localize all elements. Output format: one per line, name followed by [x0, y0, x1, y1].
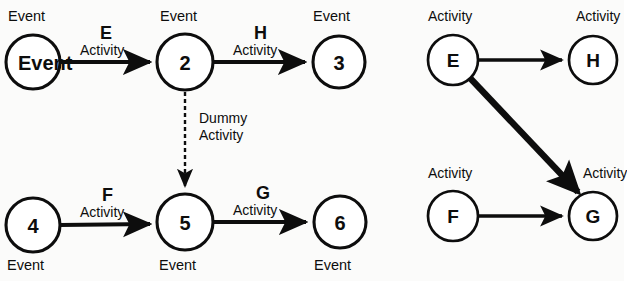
- event-3-caption: Event: [313, 9, 350, 24]
- event-4-caption: Event: [7, 258, 44, 273]
- event-node-3-label: 3: [324, 53, 354, 73]
- activity-node-F-caption: Activity: [428, 166, 472, 180]
- event-node-2-label: 2: [170, 53, 200, 73]
- event-node-5-label: 5: [170, 213, 200, 233]
- activity-G-caption: Activity: [233, 203, 277, 217]
- event-5-caption: Event: [159, 258, 196, 273]
- activity-H-caption: Activity: [233, 43, 277, 57]
- dependency-arrow-E-to-G[interactable]: [470, 78, 578, 192]
- event-6-caption: Event: [314, 258, 351, 273]
- activity-node-G-caption: Activity: [583, 166, 627, 180]
- activity-E-caption: Activity: [80, 43, 124, 57]
- event-node-4-label: 4: [18, 216, 48, 236]
- activity-node-F-label: F: [438, 207, 468, 226]
- activity-node-E-label: E: [438, 51, 468, 70]
- activity-node-G-label: G: [578, 207, 608, 226]
- activity-node-H-label: H: [578, 51, 608, 70]
- activity-node-H-caption: Activity: [576, 9, 620, 23]
- event-node-1-label: Event: [18, 53, 48, 73]
- activity-F-code: F: [102, 186, 113, 204]
- dummy-activity-label-line2: Activity: [199, 128, 243, 142]
- activity-arrow-F[interactable]: [60, 224, 150, 225]
- activity-node-E-caption: Activity: [428, 9, 472, 23]
- event-2-caption: Event: [160, 9, 197, 24]
- event-node-6-label: 6: [325, 213, 355, 233]
- event-1-caption: Event: [8, 9, 45, 24]
- dummy-activity-label-line1: Dummy: [199, 111, 247, 125]
- activity-F-caption: Activity: [80, 205, 124, 219]
- activity-G-code: G: [256, 184, 270, 202]
- activity-E-code: E: [100, 24, 112, 42]
- activity-H-code: H: [254, 24, 267, 42]
